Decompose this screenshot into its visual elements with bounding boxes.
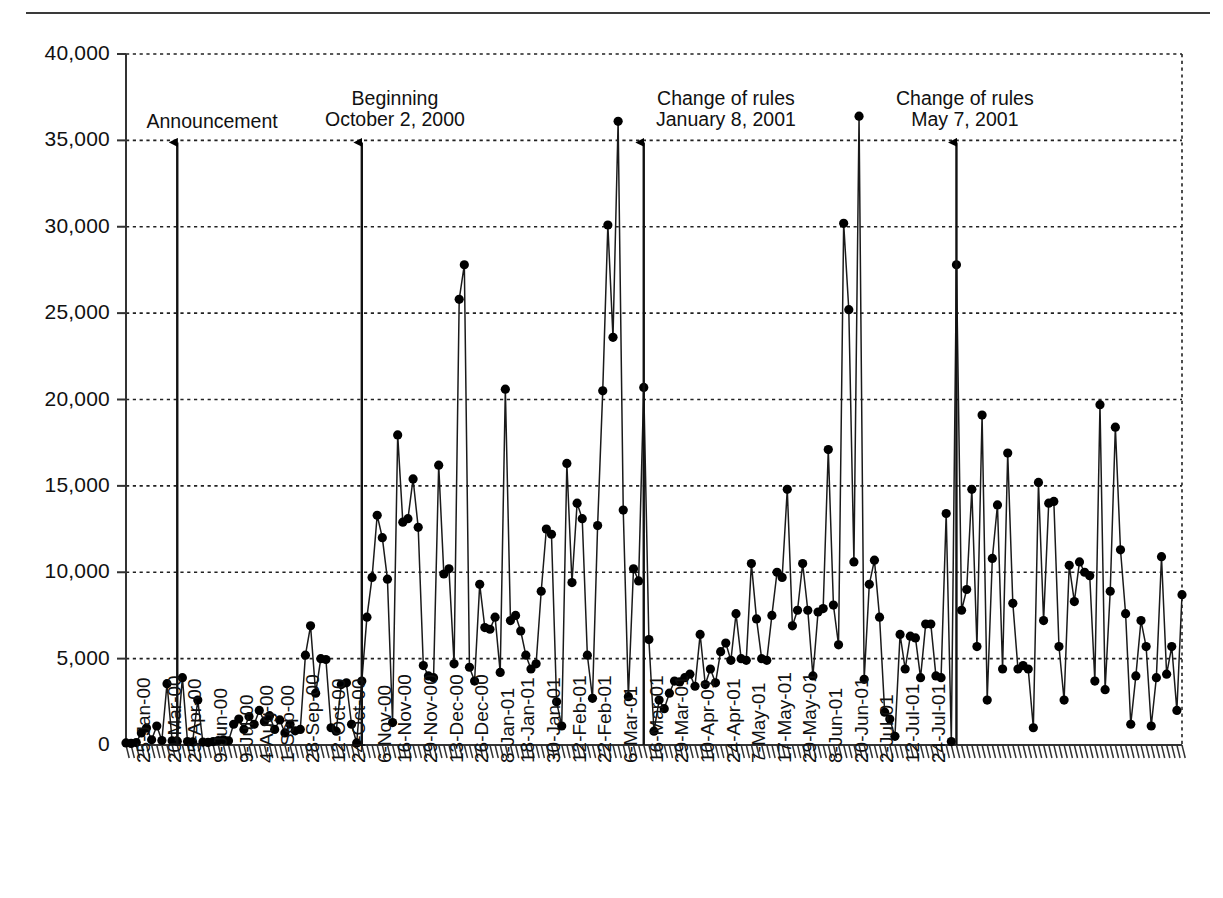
data-point <box>1008 599 1017 608</box>
data-point <box>1106 587 1115 596</box>
x-axis-tick-label: 18-Jan-01 <box>517 677 539 763</box>
data-point <box>988 554 997 563</box>
x-axis-tick-label: 29-Mar-01 <box>671 675 693 763</box>
data-point <box>629 564 638 573</box>
data-point <box>1167 642 1176 651</box>
x-tick <box>1028 745 1031 758</box>
data-point <box>762 656 771 665</box>
data-point <box>485 625 494 634</box>
x-axis-tick-label: 25-Apr-00 <box>184 679 206 764</box>
x-tick <box>1074 745 1077 758</box>
data-point <box>614 117 623 126</box>
data-point <box>383 575 392 584</box>
x-tick <box>1003 745 1006 758</box>
data-point <box>583 651 592 660</box>
data-point <box>619 505 628 514</box>
data-point <box>516 626 525 635</box>
data-point <box>1121 609 1130 618</box>
x-tick <box>987 745 990 758</box>
data-point <box>1024 664 1033 673</box>
x-tick <box>1090 745 1093 758</box>
x-tick <box>1136 745 1139 758</box>
data-point <box>1029 723 1038 732</box>
data-point <box>854 112 863 121</box>
x-tick <box>1023 745 1026 758</box>
x-axis-tick-label: 12-Feb-01 <box>569 675 591 763</box>
x-axis-tick-label: 9-Jul-00 <box>236 694 258 763</box>
x-axis-tick-label: 22-Feb-01 <box>594 675 616 763</box>
data-point <box>834 640 843 649</box>
data-point <box>993 500 1002 509</box>
annotation-label-3: Change of rulesJanuary 8, 2001 <box>656 88 796 130</box>
x-tick <box>1008 745 1011 758</box>
data-point <box>1039 616 1048 625</box>
x-tick <box>951 745 954 758</box>
data-point <box>644 635 653 644</box>
x-tick <box>1095 745 1098 758</box>
x-tick <box>956 745 959 758</box>
x-tick <box>1182 745 1185 758</box>
data-point <box>547 530 556 539</box>
x-tick <box>982 745 985 758</box>
data-point <box>1060 695 1069 704</box>
x-axis-tick-label: 25-Jan-00 <box>133 677 155 763</box>
data-point <box>1070 597 1079 606</box>
data-point <box>1075 557 1084 566</box>
x-tick <box>1049 745 1052 758</box>
data-point <box>465 663 474 672</box>
data-point <box>1101 685 1110 694</box>
data-point <box>1090 676 1099 685</box>
data-point <box>721 638 730 647</box>
data-point <box>747 559 756 568</box>
y-axis-tick-label: 10,000 <box>45 559 110 583</box>
x-tick <box>1156 745 1159 758</box>
annotation-line-1: Beginning <box>325 88 465 109</box>
data-point <box>875 613 884 622</box>
data-point <box>696 630 705 639</box>
x-tick <box>1044 745 1047 758</box>
data-point <box>378 533 387 542</box>
annotation-line-2: October 2, 2000 <box>325 109 465 130</box>
annotation-arrows <box>177 142 956 745</box>
x-axis-tick-label: 20-Jun-01 <box>851 677 873 763</box>
data-point <box>501 385 510 394</box>
x-tick <box>1115 745 1118 758</box>
data-point <box>926 619 935 628</box>
data-point <box>819 604 828 613</box>
data-point <box>1003 448 1012 457</box>
x-axis-tick-label: 12-Jul-01 <box>902 684 924 763</box>
data-point <box>829 600 838 609</box>
data-point <box>767 611 776 620</box>
x-tick <box>1018 745 1021 758</box>
data-point <box>706 664 715 673</box>
x-tick <box>1161 745 1164 758</box>
x-axis-tick-label: 6-Nov-00 <box>374 685 396 763</box>
data-point <box>449 659 458 668</box>
data-point <box>490 613 499 622</box>
data-point <box>1116 545 1125 554</box>
annotation-line-1: Change of rules <box>896 88 1034 109</box>
x-axis-tick-label: 2-Jul-01 <box>876 694 898 763</box>
x-axis-tick-label: 7-May-01 <box>748 683 770 763</box>
annotation-label-2: BeginningOctober 2, 2000 <box>325 88 465 130</box>
data-point <box>419 661 428 670</box>
data-point <box>475 580 484 589</box>
x-tick <box>1151 745 1154 758</box>
data-point <box>942 509 951 518</box>
x-axis-tick-label: 8-Jan-01 <box>497 688 519 763</box>
x-axis-tick-label: 24-Jul-01 <box>928 684 950 763</box>
x-axis-tick-label: 20-Mar-00 <box>164 675 186 763</box>
data-point <box>972 642 981 651</box>
annotation-line-1: Change of rules <box>656 88 796 109</box>
x-tick <box>1110 745 1113 758</box>
data-point <box>367 573 376 582</box>
x-axis-tick-label: 8-Jun-01 <box>825 688 847 763</box>
data-point <box>1131 671 1140 680</box>
x-tick <box>1100 745 1103 758</box>
data-point <box>444 564 453 573</box>
data-point <box>593 521 602 530</box>
data-point <box>911 633 920 642</box>
x-axis-tick-label: 16-Mar-01 <box>646 675 668 763</box>
x-tick <box>977 745 980 758</box>
data-point <box>1177 590 1186 599</box>
